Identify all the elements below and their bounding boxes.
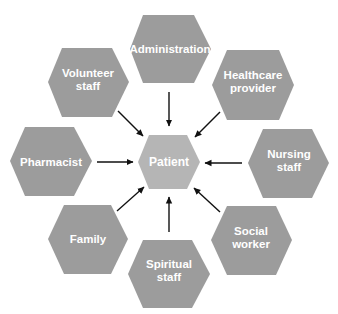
node-label: Patient [149, 155, 189, 169]
node-label: Pharmacist [20, 156, 82, 168]
node-family: Family [48, 205, 128, 274]
arrow-social-worker-to-patient [194, 188, 220, 212]
node-volunteer-staff: Volunteerstaff [48, 48, 129, 117]
node-label: Spiritual [146, 258, 192, 270]
node-social-worker: Socialworker [211, 206, 292, 275]
node-label: Nursing [267, 148, 310, 160]
node-label: Healthcare [224, 69, 283, 81]
node-label: staff [157, 271, 181, 283]
patient-care-diagram: AdministrationVolunteerstaffHealthcarepr… [0, 0, 338, 314]
node-label: Volunteer [62, 67, 115, 79]
node-label: Social [234, 225, 268, 237]
node-label: provider [230, 82, 277, 94]
node-healthcare-provider: Healthcareprovider [212, 50, 294, 120]
node-nursing-staff: Nursingstaff [248, 129, 329, 198]
arrow-volunteer-staff-to-patient [118, 111, 143, 136]
node-spiritual-staff: Spiritualstaff [128, 240, 210, 308]
node-label: worker [231, 238, 270, 250]
node-administration: Administration [129, 15, 211, 83]
arrow-healthcare-provider-to-patient [195, 112, 220, 137]
node-patient: Patient [138, 135, 200, 189]
node-pharmacist: Pharmacist [10, 127, 92, 196]
node-label: Family [70, 233, 107, 245]
arrow-family-to-patient [117, 187, 144, 211]
node-label: Administration [129, 43, 210, 55]
node-label: staff [277, 161, 301, 173]
node-label: staff [76, 80, 100, 92]
center-node-layer: Patient [138, 135, 200, 189]
